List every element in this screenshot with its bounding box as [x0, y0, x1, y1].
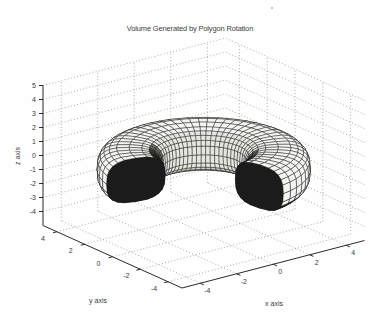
chart-title: Volume Generated by Polygon Rotation [127, 24, 253, 33]
mesh-face [201, 135, 206, 140]
grid-line [134, 202, 273, 265]
tick-mark [109, 257, 113, 258]
tick-label: 0 [278, 268, 282, 275]
mesh-face [200, 131, 206, 135]
tick-label: 2 [69, 247, 73, 254]
tick-label: 2 [32, 124, 36, 131]
grid-line [226, 38, 365, 101]
mesh-face [183, 147, 188, 156]
grid-line [226, 52, 365, 115]
mesh-face [191, 141, 196, 147]
mesh-face [276, 141, 290, 144]
grid-line [43, 38, 226, 86]
grid-line [168, 234, 351, 282]
plot-svg: -4-3-2-1012345-4-2024-4-2024 Volume Gene… [0, 0, 382, 322]
tick-mark [237, 274, 241, 276]
mesh-face [210, 146, 215, 155]
figure-canvas: -4-3-2-1012345-4-2024-4-2024 Volume Gene… [0, 0, 382, 322]
mesh-face [266, 147, 279, 150]
mesh-face [179, 157, 183, 166]
tick-label: 4 [41, 235, 45, 242]
mesh-face [192, 146, 197, 155]
grid-line [113, 209, 296, 257]
mesh-face [201, 155, 206, 163]
tick-label: 0 [32, 152, 36, 159]
tick-label: 4 [32, 96, 36, 103]
mesh-face [206, 163, 211, 167]
mesh-face [129, 147, 142, 150]
mesh-face [179, 148, 183, 158]
mesh-face [196, 140, 201, 146]
tick-mark [346, 245, 350, 247]
grid-line [98, 211, 237, 274]
mesh-face [206, 135, 211, 140]
tick-label: -2 [123, 272, 129, 279]
tick-mark [310, 255, 314, 257]
mesh-face [188, 155, 193, 164]
x-axis-label: x axis [265, 300, 283, 307]
tick-label: 1 [32, 138, 36, 145]
grid-line [85, 197, 268, 245]
mesh-face [215, 155, 220, 164]
tick-mark [273, 264, 277, 266]
grid-line [140, 222, 322, 270]
mesh-face [196, 155, 201, 163]
tick-mark [200, 283, 204, 285]
tick-label: -2 [241, 278, 247, 285]
mesh-face [215, 147, 220, 156]
scan-artifact-dot [271, 7, 273, 9]
tick-mark [81, 244, 85, 245]
mesh-face [183, 156, 188, 165]
mesh-face [196, 146, 201, 155]
tick-mark [53, 232, 57, 233]
tick-label: 3 [32, 110, 36, 117]
mesh-face [192, 155, 197, 164]
torus-mesh [97, 117, 310, 210]
mesh-face [201, 167, 206, 169]
mesh-face [210, 141, 215, 147]
tick-mark [136, 269, 140, 270]
grid-line [61, 221, 200, 284]
tick-label: 2 [315, 259, 319, 266]
mesh-face [206, 155, 211, 163]
mesh-face [201, 140, 206, 146]
tick-label: -1 [30, 166, 36, 173]
mesh-face [196, 163, 201, 167]
tick-labels: -4-3-2-1012345-4-2024-4-2024 [30, 82, 356, 294]
tick-label: 5 [32, 82, 36, 89]
mesh-face [199, 122, 207, 127]
y-axis-label: y axis [89, 297, 107, 305]
mesh-face [219, 147, 224, 156]
mesh-face [210, 155, 215, 164]
tick-label: 4 [351, 249, 355, 256]
tick-mark [164, 282, 168, 283]
mesh-face [219, 156, 224, 165]
z-axis-label: z axis [14, 147, 21, 165]
mesh-face [188, 147, 193, 156]
tick-label: -4 [204, 287, 210, 294]
mesh-face [206, 140, 211, 146]
mesh-face [206, 146, 211, 155]
tick-label: -4 [151, 285, 157, 292]
mesh-face [195, 135, 201, 140]
mesh-face [201, 146, 206, 155]
tick-label: -4 [30, 208, 36, 215]
mesh-face [198, 118, 207, 122]
tick-label: -2 [30, 180, 36, 187]
mesh-face [117, 142, 131, 145]
mesh-face [223, 148, 227, 158]
mesh-face [201, 163, 206, 167]
mesh-face [223, 156, 227, 165]
tick-label: -3 [30, 194, 36, 201]
mesh-face [200, 127, 207, 131]
tick-label: 0 [97, 260, 101, 267]
